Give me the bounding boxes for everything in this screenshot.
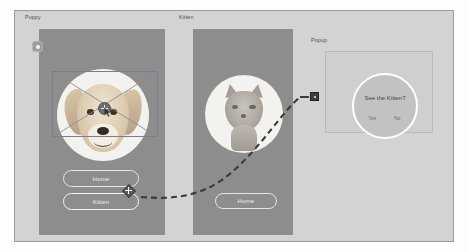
- connector-source-handle[interactable]: [122, 184, 135, 197]
- prototype-canvas-screen: Puppy: [0, 0, 468, 252]
- frame-label-puppy: Puppy: [25, 14, 41, 20]
- home-frame-badge-icon: [32, 41, 43, 52]
- connector-target-stub: [300, 96, 309, 98]
- kitten-illustration: [205, 75, 283, 153]
- frame-label-kitten: Kitten: [179, 14, 193, 20]
- kitten-eye-left-icon: [232, 105, 238, 110]
- kitten-photo[interactable]: [205, 75, 283, 153]
- connector-target-marker[interactable]: [310, 92, 319, 101]
- kitten-body-icon: [231, 125, 258, 152]
- popup-yes-button[interactable]: Yes: [368, 115, 376, 121]
- popup-title: See the Kitten?: [354, 95, 416, 101]
- popup-modal-dialog[interactable]: See the Kitten? Yes No: [352, 73, 418, 139]
- cursor-arrow-icon: [104, 107, 112, 117]
- prototype-canvas[interactable]: Puppy: [14, 10, 454, 242]
- kitten-eye-right-icon: [249, 105, 255, 110]
- popup-no-button[interactable]: No: [394, 115, 400, 121]
- connector-plus-horizontal-icon: [125, 190, 132, 191]
- kitten-home-button[interactable]: Home: [215, 193, 277, 209]
- frame-label-popup: Popup: [311, 37, 327, 43]
